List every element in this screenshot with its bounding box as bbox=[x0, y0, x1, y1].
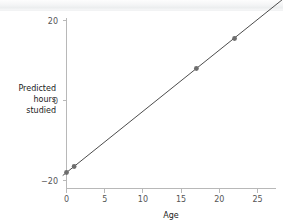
data-point bbox=[232, 36, 237, 41]
x-tick-label-10: 10 bbox=[138, 195, 148, 204]
x-tick-label-5: 5 bbox=[102, 195, 107, 204]
x-tick-label-25: 25 bbox=[252, 195, 262, 204]
x-axis-title: Age bbox=[163, 211, 179, 220]
y-axis-title-line-1: Predicted bbox=[18, 84, 56, 93]
y-tick-label-20: 20 bbox=[48, 17, 58, 26]
data-point bbox=[72, 164, 77, 169]
data-point bbox=[194, 66, 199, 71]
regression-line bbox=[63, 0, 283, 176]
y-tick-label-0: 0 bbox=[53, 97, 58, 106]
y-axis-title-line-3: studied bbox=[26, 106, 56, 115]
chart-figure: Predicted hours studied 20 0 −20 0 5 10 bbox=[0, 0, 283, 224]
x-tick-label-0: 0 bbox=[64, 195, 69, 204]
y-tick-label-minus20: −20 bbox=[41, 177, 58, 186]
x-tick-label-15: 15 bbox=[176, 195, 186, 204]
scatter-plot: Predicted hours studied 20 0 −20 0 5 10 bbox=[0, 0, 283, 224]
x-axis-ticks: 0 5 10 15 20 25 bbox=[64, 189, 263, 205]
x-tick-label-20: 20 bbox=[214, 195, 224, 204]
y-axis-title: Predicted hours studied bbox=[18, 84, 56, 115]
data-point bbox=[64, 170, 69, 175]
